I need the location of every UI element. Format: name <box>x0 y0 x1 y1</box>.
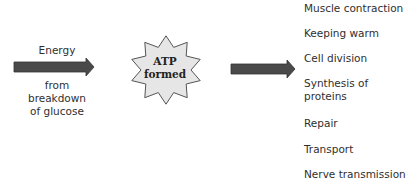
energy-source-label: from breakdown of glucose <box>18 79 96 118</box>
use-line: proteins <box>304 90 368 103</box>
use-item: Nerve transmission <box>304 168 406 181</box>
energy-label: Energy <box>22 44 92 57</box>
use-item: Muscle contraction <box>304 2 403 15</box>
use-item: Transport <box>304 143 353 156</box>
arrow-right-icon <box>12 58 96 76</box>
source-line-2: breakdown <box>18 92 96 105</box>
use-line: Synthesis of <box>304 77 368 90</box>
source-line-3: of glucose <box>18 105 96 118</box>
atp-label: ATP formed <box>132 55 198 81</box>
use-item: Cell division <box>304 52 367 65</box>
use-item: Keeping warm <box>304 27 379 40</box>
arrow-right-icon <box>229 60 297 78</box>
atp-line-1: ATP <box>132 55 198 68</box>
atp-line-2: formed <box>132 68 198 81</box>
use-item: Synthesis of proteins <box>304 77 368 103</box>
source-line-1: from <box>18 79 96 92</box>
use-item: Repair <box>304 117 338 130</box>
